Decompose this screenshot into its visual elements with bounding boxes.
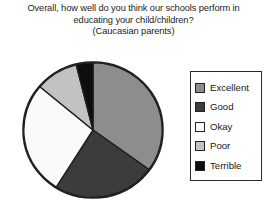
- legend-swatch-terrible: [195, 161, 205, 171]
- chart-title-line-2: educating your child/children?: [8, 15, 259, 27]
- legend-item-excellent[interactable]: Excellent: [195, 78, 261, 98]
- chart-title: Overall, how well do you think our schoo…: [8, 3, 259, 38]
- chart-legend: Excellent Good Okay Poor Terrible: [190, 71, 262, 181]
- pie-svg: [22, 61, 164, 199]
- legend-label-terrible: Terrible: [210, 161, 241, 171]
- legend-swatch-okay: [195, 122, 205, 132]
- legend-item-terrible[interactable]: Terrible: [195, 156, 261, 176]
- legend-item-poor[interactable]: Poor: [195, 137, 261, 157]
- legend-swatch-good: [195, 102, 205, 112]
- legend-item-good[interactable]: Good: [195, 98, 261, 118]
- pie-plot-area: [22, 61, 164, 199]
- legend-swatch-poor: [195, 141, 205, 151]
- legend-label-okay: Okay: [210, 122, 232, 132]
- chart-title-line-1: Overall, how well do you think our schoo…: [8, 3, 259, 15]
- legend-label-good: Good: [210, 102, 233, 112]
- legend-label-excellent: Excellent: [210, 83, 249, 93]
- legend-swatch-excellent: [195, 83, 205, 93]
- pie-chart-figure: Overall, how well do you think our schoo…: [0, 0, 267, 208]
- legend-item-okay[interactable]: Okay: [195, 117, 261, 137]
- legend-label-poor: Poor: [210, 141, 230, 151]
- chart-title-line-3: (Caucasian parents): [8, 26, 259, 38]
- pie-slices: [24, 63, 162, 197]
